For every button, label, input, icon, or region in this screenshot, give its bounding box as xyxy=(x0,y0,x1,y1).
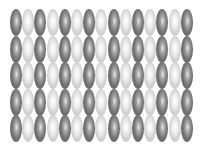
light-bead xyxy=(120,115,132,142)
light-bead xyxy=(47,115,59,142)
dark-bead xyxy=(83,9,95,36)
dark-bead xyxy=(181,89,193,116)
light-bead xyxy=(71,36,83,63)
dark-bead xyxy=(108,62,120,89)
dark-bead xyxy=(59,62,71,89)
light-bead xyxy=(71,62,83,89)
light-bead xyxy=(22,115,34,142)
dark-bead xyxy=(10,89,22,116)
dark-bead xyxy=(59,36,71,63)
light-bead xyxy=(22,36,34,63)
light-bead xyxy=(169,9,181,36)
dark-bead xyxy=(132,9,144,36)
light-bead xyxy=(169,115,181,142)
light-bead xyxy=(144,62,156,89)
dark-bead xyxy=(10,9,22,36)
light-bead xyxy=(47,89,59,116)
dark-bead xyxy=(59,89,71,116)
dark-bead xyxy=(10,62,22,89)
light-bead xyxy=(22,89,34,116)
dark-bead xyxy=(108,115,120,142)
dark-bead xyxy=(108,9,120,36)
light-bead xyxy=(144,36,156,63)
light-bead xyxy=(95,89,107,116)
light-bead xyxy=(47,9,59,36)
dark-bead xyxy=(34,9,46,36)
dark-bead xyxy=(34,115,46,142)
dark-bead xyxy=(10,115,22,142)
dark-bead xyxy=(34,36,46,63)
light-bead xyxy=(144,115,156,142)
light-bead xyxy=(169,62,181,89)
dark-bead xyxy=(59,115,71,142)
dark-bead xyxy=(83,36,95,63)
dark-bead xyxy=(108,89,120,116)
light-bead xyxy=(144,9,156,36)
light-bead xyxy=(22,9,34,36)
light-bead xyxy=(120,62,132,89)
light-bead xyxy=(169,36,181,63)
dark-bead xyxy=(156,62,168,89)
dark-bead xyxy=(132,89,144,116)
dark-bead xyxy=(10,36,22,63)
light-bead xyxy=(71,115,83,142)
light-bead xyxy=(71,89,83,116)
light-bead xyxy=(47,62,59,89)
dark-bead xyxy=(132,62,144,89)
dark-bead xyxy=(83,62,95,89)
dark-bead xyxy=(156,36,168,63)
light-bead xyxy=(120,36,132,63)
light-bead xyxy=(169,89,181,116)
dark-bead xyxy=(156,9,168,36)
dark-bead xyxy=(156,89,168,116)
dark-bead xyxy=(34,62,46,89)
light-bead xyxy=(71,9,83,36)
bead-grid xyxy=(10,9,193,143)
light-bead xyxy=(95,9,107,36)
dark-bead xyxy=(83,115,95,142)
dark-bead xyxy=(181,9,193,36)
light-bead xyxy=(47,36,59,63)
dark-bead xyxy=(59,9,71,36)
dark-bead xyxy=(132,115,144,142)
light-bead xyxy=(120,9,132,36)
dark-bead xyxy=(181,115,193,142)
dark-bead xyxy=(181,62,193,89)
dark-bead xyxy=(132,36,144,63)
dark-bead xyxy=(34,89,46,116)
dark-bead xyxy=(83,89,95,116)
light-bead xyxy=(95,62,107,89)
dark-bead xyxy=(181,36,193,63)
light-bead xyxy=(95,36,107,63)
dark-bead xyxy=(108,36,120,63)
light-bead xyxy=(144,89,156,116)
light-bead xyxy=(22,62,34,89)
dark-bead xyxy=(156,115,168,142)
light-bead xyxy=(120,89,132,116)
light-bead xyxy=(95,115,107,142)
